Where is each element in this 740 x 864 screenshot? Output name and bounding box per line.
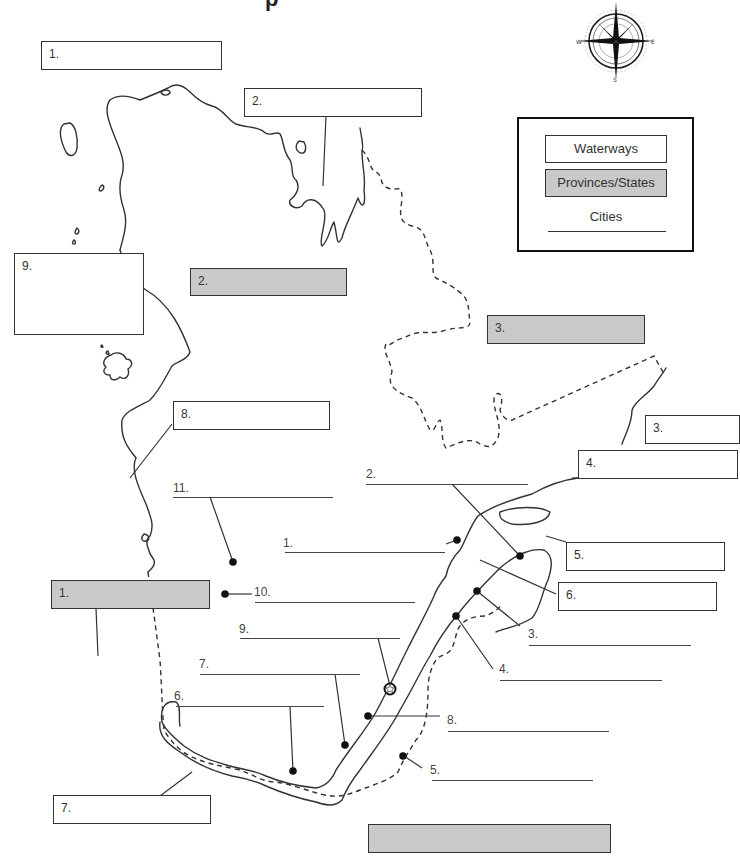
island bbox=[296, 141, 305, 153]
waterway-box-7[interactable]: 7. bbox=[53, 795, 211, 824]
waterway-label: 1. bbox=[49, 47, 59, 61]
waterway-box-3[interactable]: 3. bbox=[645, 415, 740, 444]
legend-cities: Cities bbox=[545, 209, 667, 224]
city-label-5: 5. bbox=[430, 763, 440, 777]
city-blank-4[interactable] bbox=[500, 680, 662, 681]
city-blank-3[interactable] bbox=[529, 645, 691, 646]
legend-cities-line bbox=[548, 231, 666, 232]
province-label: 2. bbox=[198, 274, 208, 288]
city-label-1: 1. bbox=[283, 536, 293, 550]
city-label-10: 10. bbox=[254, 585, 271, 599]
province-box-2[interactable]: 2. bbox=[190, 268, 347, 296]
map-legend: Waterways Provinces/States Cities bbox=[517, 117, 694, 252]
city-label-4: 4. bbox=[499, 662, 509, 676]
waterway-label: 2. bbox=[252, 94, 262, 108]
city-blank-2[interactable] bbox=[366, 484, 528, 485]
peninsula-coastline bbox=[458, 550, 551, 632]
province-box-unlabeled[interactable] bbox=[368, 824, 611, 853]
waterway-box-4[interactable]: 4. bbox=[578, 450, 738, 479]
capital-star-icon bbox=[385, 684, 396, 695]
waterway-box-6[interactable]: 6. bbox=[558, 582, 717, 611]
province-box-3[interactable]: 3. bbox=[487, 315, 645, 344]
city-label-6: 6. bbox=[174, 689, 184, 703]
city-label-8: 8. bbox=[447, 713, 457, 727]
waterway-label: 8. bbox=[181, 407, 191, 421]
city-blank-7[interactable] bbox=[200, 674, 360, 675]
svg-text:W: W bbox=[576, 38, 582, 45]
island bbox=[101, 345, 109, 354]
river-bank bbox=[160, 614, 458, 805]
waterway-box-8[interactable]: 8. bbox=[173, 401, 330, 430]
island bbox=[60, 123, 77, 155]
waterway-label: 7. bbox=[61, 801, 71, 815]
legend-provinces: Provinces/States bbox=[545, 169, 667, 197]
island bbox=[73, 228, 79, 244]
city-label-7: 7. bbox=[199, 657, 209, 671]
city-blank-11[interactable] bbox=[173, 497, 333, 498]
compass-rose-icon: W E S bbox=[576, 0, 656, 82]
city-blank-6[interactable] bbox=[176, 706, 324, 707]
waterway-label: 3. bbox=[653, 421, 663, 435]
city-blank-1[interactable] bbox=[285, 552, 445, 553]
waterway-label: 9. bbox=[22, 259, 32, 273]
city-label-3: 3. bbox=[528, 627, 538, 641]
province-label: 1. bbox=[59, 586, 69, 600]
svg-text:S: S bbox=[613, 76, 617, 82]
svg-text:E: E bbox=[651, 38, 655, 45]
legend-waterways: Waterways bbox=[545, 135, 667, 163]
island bbox=[99, 185, 104, 191]
island bbox=[104, 353, 132, 380]
city-label-11: 11. bbox=[173, 481, 189, 495]
city-blank-5[interactable] bbox=[432, 780, 593, 781]
waterway-box-2[interactable]: 2. bbox=[244, 88, 422, 117]
waterway-box-9[interactable]: 9. bbox=[14, 253, 144, 335]
waterway-box-5[interactable]: 5. bbox=[566, 542, 725, 571]
city-dots bbox=[221, 536, 524, 775]
waterway-label: 5. bbox=[574, 548, 584, 562]
city-blank-9[interactable] bbox=[240, 638, 400, 639]
city-blank-8[interactable] bbox=[448, 731, 609, 732]
waterway-label: 6. bbox=[566, 588, 576, 602]
city-label-9: 9. bbox=[239, 622, 249, 636]
city-blank-10[interactable] bbox=[255, 602, 415, 603]
city-label-2: 2. bbox=[366, 467, 376, 481]
province-label: 3. bbox=[495, 321, 505, 335]
lake bbox=[500, 508, 550, 525]
province-box-1[interactable]: 1. bbox=[51, 580, 210, 609]
waterway-label: 4. bbox=[586, 456, 596, 470]
waterway-box-1[interactable]: 1. bbox=[41, 41, 222, 70]
